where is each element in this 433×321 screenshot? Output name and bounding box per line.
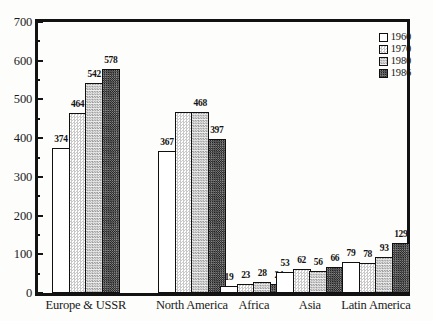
y-tick-label-500: 500 [2,93,32,106]
y-major-tick-100 [35,253,43,255]
legend-label: 1960 [391,32,411,43]
bar-value-label: 53 [281,259,290,269]
bar-value-label: 468 [194,99,207,109]
y-major-tick-400 [35,137,43,139]
x-label-north-america: North America [156,298,228,312]
bar-1986[interactable]: 578 [102,69,120,293]
legend-swatch-dark-checker-icon [379,69,388,78]
x-label-africa: Africa [239,298,270,312]
bars: 367468397 [158,22,226,293]
bar-value-label: 93 [380,244,389,254]
y-minor-tick-350 [35,157,40,159]
bar-value-label: 19 [225,273,234,283]
bar-value-label: 79 [347,249,356,259]
bar-value-label: 62 [297,256,306,266]
y-tick-label-400: 400 [2,132,32,145]
bar-1980[interactable]: 468 [191,112,209,293]
legend-label: 1980 [391,56,411,67]
legend-item-1970[interactable]: 1970 [379,44,411,55]
bar-value-label: 66 [330,254,339,264]
y-major-tick-500 [35,98,43,100]
bar-1970[interactable] [175,112,193,293]
bar-1960[interactable]: 53 [276,272,294,293]
bar-1960[interactable]: 367 [158,151,176,293]
y-minor-tick-250 [35,195,40,197]
y-tick-label-700: 700 [2,16,32,29]
y-major-tick-300 [35,176,43,178]
bar-1980[interactable]: 93 [375,257,393,293]
bar-1980[interactable]: 56 [309,271,327,293]
y-tick-label-300: 300 [2,171,32,184]
bar-1960[interactable]: 79 [342,262,360,293]
bar-1960[interactable]: 19 [220,286,238,293]
y-major-tick-0 [35,292,43,294]
y-major-tick-700 [35,21,43,23]
x-axis-labels: Europe & USSRNorth AmericaAfricaAsiaLati… [38,298,407,320]
y-tick-label-200: 200 [2,209,32,222]
legend-label: 1970 [391,44,411,55]
y-tick-label-600: 600 [2,54,32,67]
y-minor-tick-550 [35,79,40,81]
bar-1970[interactable]: 62 [293,269,311,293]
legend-item-1986[interactable]: 1986 [379,68,411,79]
bar-value-label: 374 [54,135,67,145]
y-axis: 0100200300400500600700 [0,0,32,321]
bars: 53625666 [276,22,344,293]
chart-canvas: 0100200300400500600700 37446454257836746… [0,0,433,321]
y-major-tick-200 [35,215,43,217]
bar-value-label: 23 [241,271,250,281]
bar-1970[interactable]: 464 [69,113,87,293]
y-tick-label-100: 100 [2,248,32,261]
x-label-latin-america: Latin America [341,298,410,312]
bar-value-label: 578 [104,56,117,66]
bar-1970[interactable]: 78 [359,263,377,293]
bar-value-label: 56 [314,258,323,268]
y-minor-tick-650 [35,40,40,42]
bar-1970[interactable]: 23 [237,284,255,293]
legend-swatch-blank-white-icon [379,33,388,42]
y-minor-tick-150 [35,234,40,236]
legend-item-1960[interactable]: 1960 [379,32,411,43]
bar-1986[interactable]: 129 [392,243,410,293]
x-label-asia: Asia [299,298,321,312]
x-label-europe-ussr: Europe & USSR [46,298,127,312]
bar-value-label: 129 [394,230,407,240]
bar-value-label: 367 [160,138,173,148]
bar-1980[interactable]: 542 [85,83,103,293]
y-tick-label-0: 0 [2,287,32,300]
legend: 1960197019801986 [379,32,411,79]
bar-value-label: 464 [71,100,84,110]
bar-1960[interactable]: 374 [52,148,70,293]
y-minor-tick-50 [35,273,40,275]
legend-swatch-medium-stipple-icon [379,57,388,66]
legend-label: 1986 [391,68,411,79]
bar-groups: 3744645425783674683971923282453625666797… [38,22,407,293]
y-major-tick-600 [35,60,43,62]
bar-value-label: 542 [88,70,101,80]
bar-value-label: 78 [363,250,372,260]
bars: 374464542578 [52,22,120,293]
bar-1980[interactable]: 28 [253,282,271,293]
legend-item-1980[interactable]: 1980 [379,56,411,67]
y-minor-tick-450 [35,118,40,120]
bar-value-label: 28 [258,269,267,279]
legend-swatch-light-stipple-icon [379,45,388,54]
